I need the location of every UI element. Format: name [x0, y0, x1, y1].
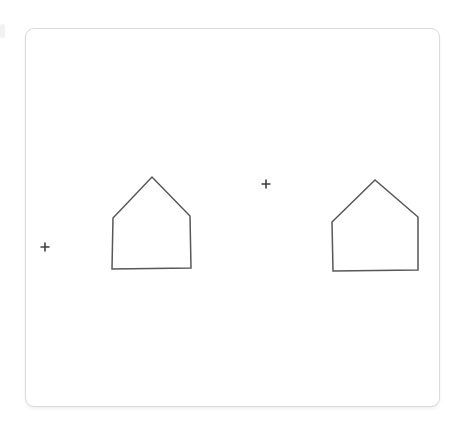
drawing-stage [0, 0, 469, 429]
left-edge-artifact [0, 24, 5, 38]
canvas-card[interactable] [25, 28, 440, 407]
